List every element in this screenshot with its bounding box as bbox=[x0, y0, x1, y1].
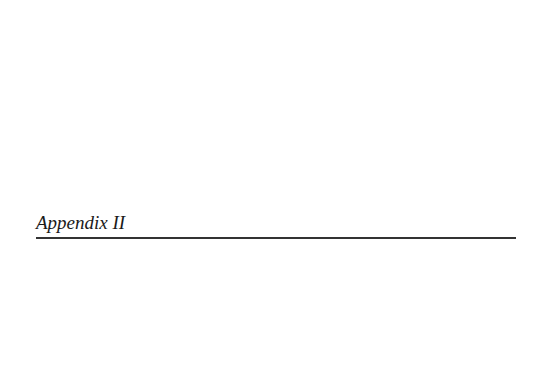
appendix-heading: Appendix II bbox=[36, 212, 125, 234]
heading-rule-divider bbox=[36, 237, 516, 239]
